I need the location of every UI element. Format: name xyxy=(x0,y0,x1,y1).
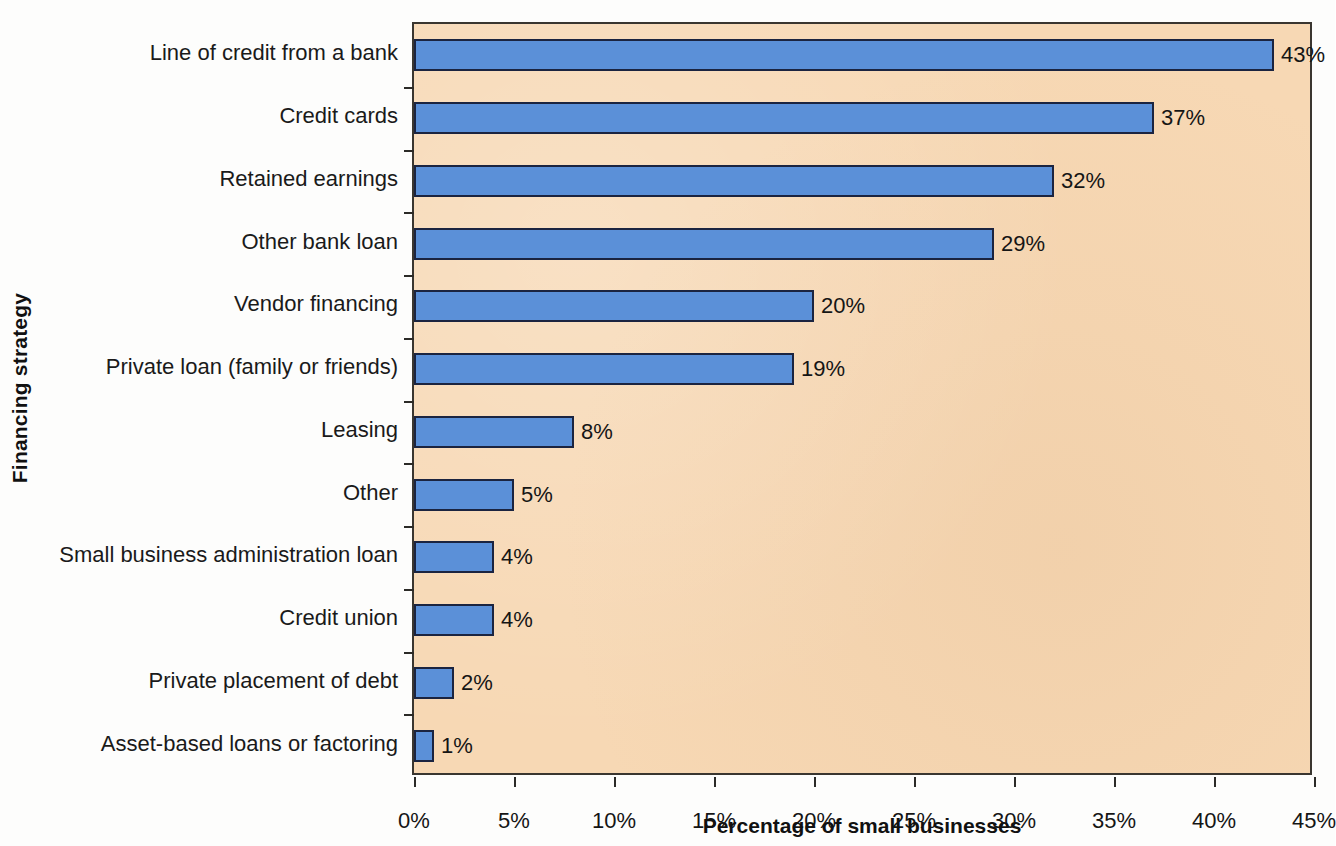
y-axis-tick xyxy=(404,401,414,403)
x-axis-tick xyxy=(814,777,816,787)
y-axis-title: Financing strategy xyxy=(0,0,40,775)
bar-row: 5% xyxy=(414,479,1314,511)
plot-area: 43%37%32%29%20%19%8%5%4%4%2%1%0%5%10%15%… xyxy=(412,22,1312,775)
category-label: Private loan (family or friends) xyxy=(106,353,398,381)
category-label: Retained earnings xyxy=(219,165,398,193)
bar xyxy=(414,604,494,636)
x-axis-tick xyxy=(1314,777,1316,787)
y-axis-tick xyxy=(404,87,414,89)
y-axis-tick xyxy=(404,714,414,716)
bar-row: 32% xyxy=(414,165,1314,197)
bar-row: 8% xyxy=(414,416,1314,448)
category-label: Small business administration loan xyxy=(59,541,398,569)
x-axis-tick xyxy=(614,777,616,787)
bar-row: 20% xyxy=(414,290,1314,322)
bar xyxy=(414,479,514,511)
bar-value-label: 37% xyxy=(1154,102,1205,134)
y-axis-tick xyxy=(404,150,414,152)
bar xyxy=(414,228,994,260)
bar-row: 1% xyxy=(414,730,1314,762)
bar-row: 2% xyxy=(414,667,1314,699)
bar-value-label: 4% xyxy=(494,604,533,636)
bar-value-label: 20% xyxy=(814,290,865,322)
bar xyxy=(414,290,814,322)
x-axis-tick xyxy=(1114,777,1116,787)
bar xyxy=(414,165,1054,197)
bar-row: 19% xyxy=(414,353,1314,385)
category-label: Vendor financing xyxy=(234,290,398,318)
bar-row: 4% xyxy=(414,541,1314,573)
x-axis-title: Percentage of small businesses xyxy=(412,814,1312,838)
x-axis-tick xyxy=(1214,777,1216,787)
bar-value-label: 2% xyxy=(454,667,493,699)
category-label: Private placement of debt xyxy=(149,667,398,695)
x-axis-tick xyxy=(1014,777,1016,787)
bar-value-label: 29% xyxy=(994,228,1045,260)
bar-value-label: 8% xyxy=(574,416,613,448)
bar xyxy=(414,416,574,448)
category-label: Other xyxy=(343,479,398,507)
y-axis-tick xyxy=(404,463,414,465)
y-axis-tick xyxy=(404,526,414,528)
category-label: Leasing xyxy=(321,416,398,444)
bar-row: 43% xyxy=(414,39,1314,71)
bar-row: 29% xyxy=(414,228,1314,260)
category-label: Line of credit from a bank xyxy=(150,39,398,67)
bar xyxy=(414,39,1274,71)
bar-value-label: 43% xyxy=(1274,39,1325,71)
y-axis-tick xyxy=(404,589,414,591)
category-label-column: Line of credit from a bankCredit cardsRe… xyxy=(40,22,406,775)
bar-row: 37% xyxy=(414,102,1314,134)
x-axis-tick xyxy=(914,777,916,787)
bar xyxy=(414,667,454,699)
y-axis-title-text: Financing strategy xyxy=(8,292,32,482)
y-axis-tick xyxy=(404,212,414,214)
y-axis-tick xyxy=(404,652,414,654)
category-label: Other bank loan xyxy=(241,228,398,256)
bar-value-label: 5% xyxy=(514,479,553,511)
x-axis-tick xyxy=(414,777,416,787)
category-label: Asset-based loans or factoring xyxy=(101,730,398,758)
y-axis-tick xyxy=(404,275,414,277)
bar xyxy=(414,541,494,573)
y-axis-tick xyxy=(404,338,414,340)
bar-value-label: 32% xyxy=(1054,165,1105,197)
category-label: Credit union xyxy=(279,604,398,632)
bar xyxy=(414,353,794,385)
x-axis-tick xyxy=(514,777,516,787)
x-axis-tick xyxy=(714,777,716,787)
bar xyxy=(414,102,1154,134)
bar-value-label: 4% xyxy=(494,541,533,573)
category-label: Credit cards xyxy=(279,102,398,130)
bar-value-label: 19% xyxy=(794,353,845,385)
bar xyxy=(414,730,434,762)
bar-row: 4% xyxy=(414,604,1314,636)
bar-value-label: 1% xyxy=(434,730,473,762)
